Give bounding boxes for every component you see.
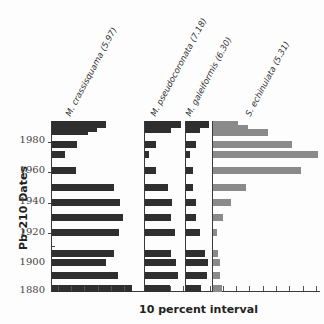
bar <box>213 285 222 292</box>
x-tick-mark <box>58 286 59 291</box>
x-tick-mark <box>276 286 277 291</box>
bar <box>52 214 123 221</box>
x-tick-mark <box>84 286 85 291</box>
y-tick-1900: 1900 <box>5 256 45 267</box>
y-axis-label: Pb–210 Dates <box>17 166 30 250</box>
bar <box>213 141 292 148</box>
bar <box>52 141 77 148</box>
bar <box>52 184 114 191</box>
bar <box>52 151 65 158</box>
bar <box>52 259 106 266</box>
x-tick-mark <box>263 286 264 291</box>
bar <box>213 129 268 136</box>
bar <box>213 151 318 158</box>
series-label-s-echinulata: S. echinulata (5.31) <box>243 39 291 118</box>
bar <box>213 272 220 279</box>
bar <box>145 272 178 279</box>
bar <box>213 250 218 257</box>
bar <box>52 250 114 257</box>
bar <box>145 151 149 158</box>
bar <box>186 199 196 206</box>
x-tick-mark <box>183 286 184 291</box>
bar <box>186 285 201 292</box>
bar <box>145 250 171 257</box>
bar <box>145 229 175 236</box>
bar <box>213 199 231 206</box>
bar <box>52 128 88 135</box>
bar <box>186 126 200 133</box>
x-tick-mark <box>303 286 304 291</box>
y-tick-1920: 1920 <box>5 226 45 237</box>
x-tick-mark <box>236 286 237 291</box>
x-tick-mark <box>111 286 112 291</box>
bar <box>213 229 217 236</box>
bar <box>145 126 171 133</box>
bar <box>213 184 246 191</box>
y-tick-1960: 1960 <box>5 164 45 175</box>
x-tick-mark <box>223 286 224 291</box>
x-axis-label: 10 percent interval <box>139 303 258 316</box>
bar <box>52 199 120 206</box>
y-tick-1880: 1880 <box>5 284 45 295</box>
bar <box>186 141 196 148</box>
bar <box>145 285 170 292</box>
bar <box>186 272 207 279</box>
bar <box>186 167 193 174</box>
bar <box>145 214 171 221</box>
x-tick-mark <box>124 286 125 291</box>
bar <box>52 167 76 174</box>
y-tick-1940: 1940 <box>5 195 45 206</box>
bar <box>145 167 156 174</box>
bar <box>186 250 205 257</box>
x-tick-mark <box>316 286 317 291</box>
bar <box>213 259 220 266</box>
bar <box>186 214 196 221</box>
bar <box>145 141 156 148</box>
x-tick-mark <box>210 286 211 291</box>
bar <box>186 184 193 191</box>
y-tick-1980: 1980 <box>5 134 45 145</box>
bar <box>145 184 168 191</box>
bar <box>186 151 190 158</box>
bar <box>186 259 208 266</box>
bar <box>213 167 301 174</box>
series-label-m-crassisquama: M. crassisquama (5.97) <box>63 25 119 118</box>
x-tick-mark <box>98 286 99 291</box>
bar <box>145 199 172 206</box>
bar <box>52 229 119 236</box>
bar <box>213 214 223 221</box>
x-tick-mark <box>170 286 171 291</box>
bar <box>145 259 176 266</box>
x-tick-mark <box>289 286 290 291</box>
bar <box>52 285 132 292</box>
bar <box>52 272 118 279</box>
bar <box>186 229 200 236</box>
x-tick-mark <box>249 286 250 291</box>
x-tick-mark <box>71 286 72 291</box>
